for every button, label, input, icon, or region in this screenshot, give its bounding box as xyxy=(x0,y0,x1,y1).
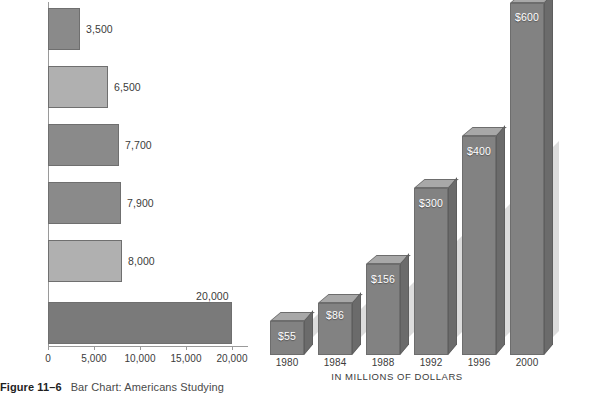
column-side-face xyxy=(352,292,361,355)
axis-tick-label: 1992 xyxy=(420,357,443,368)
column-front-face xyxy=(462,136,496,355)
category-axis-line xyxy=(48,346,248,347)
bar-spain xyxy=(48,240,122,282)
bar-britain xyxy=(48,302,232,344)
axis-tick-label: 5,000 xyxy=(81,353,107,364)
bar-value-label: 6,500 xyxy=(114,81,141,93)
column-side-face xyxy=(448,177,457,355)
column-value-label: $156 xyxy=(366,273,400,285)
column-2000: $600 xyxy=(510,3,544,355)
axis-tick-label: 1996 xyxy=(468,357,491,368)
axis-tick-label: 0 xyxy=(45,353,51,364)
column-1984: $86 xyxy=(318,303,352,355)
axis-tick-label: 20,000 xyxy=(216,353,247,364)
column-value-label: $55 xyxy=(270,330,304,342)
axis-tick xyxy=(94,346,95,350)
axis-tick-label: 1988 xyxy=(372,357,395,368)
bar-value-label: 7,700 xyxy=(125,139,152,151)
column-value-label: $300 xyxy=(414,197,448,209)
axis-tick-label: 1980 xyxy=(276,357,299,368)
axis-tick xyxy=(48,346,49,350)
bar-mexico xyxy=(48,66,108,108)
column-1992: $300 xyxy=(414,188,448,355)
column-1988: $156 xyxy=(366,264,400,355)
column-side-face xyxy=(496,125,505,355)
bar-italy xyxy=(48,182,121,224)
bar-germany xyxy=(48,8,80,50)
bar-value-label: 8,000 xyxy=(128,255,155,267)
column-side-face xyxy=(400,253,409,355)
axis-tick xyxy=(140,346,141,350)
column-value-label: $86 xyxy=(318,309,352,321)
value-axis-line xyxy=(48,2,49,346)
axis-tick-label: 10,000 xyxy=(124,353,155,364)
column-value-label: $600 xyxy=(510,11,544,23)
axis-tick xyxy=(186,346,187,350)
column-side-face xyxy=(544,0,553,355)
bar-france xyxy=(48,124,119,166)
figure-11-6: Germany 3,500 Mexico 6,500 France 7,700 … xyxy=(0,0,594,399)
column-1996: $400 xyxy=(462,136,496,355)
column-3d-chart: $55 $86 $156 $300 $400 xyxy=(252,0,594,399)
column-value-label: $400 xyxy=(462,145,496,157)
bar-value-label: 7,900 xyxy=(127,197,154,209)
axis-tick-label: 1984 xyxy=(324,357,347,368)
axis-tick-label: 15,000 xyxy=(170,353,201,364)
column-front-face xyxy=(510,3,544,355)
axis-tick xyxy=(232,346,233,350)
column-1980: $55 xyxy=(270,321,304,355)
figure-caption-text: Bar Chart: Americans Studying xyxy=(71,381,224,393)
column-front-face xyxy=(414,188,448,355)
figure-caption-label: Figure 11–6 xyxy=(0,381,62,393)
horizontal-bar-chart: Germany 3,500 Mexico 6,500 France 7,700 … xyxy=(0,0,252,372)
figure-caption: Figure 11–6Bar Chart: Americans Studying xyxy=(0,381,594,399)
axis-tick-label: 2000 xyxy=(516,357,539,368)
bar-value-label: 3,500 xyxy=(86,23,113,35)
bar-value-label: 20,000 xyxy=(196,290,229,302)
